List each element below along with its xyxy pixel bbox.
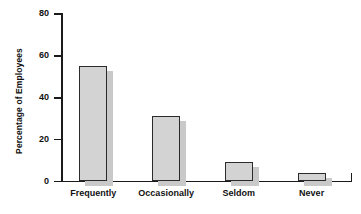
y-tick-label-40: 40 xyxy=(5,92,49,102)
x-axis-right-cap-tick xyxy=(351,173,353,181)
y-tick-20 xyxy=(54,139,61,141)
y-tick-80 xyxy=(54,13,61,15)
bar-body xyxy=(79,66,107,181)
x-tick-label-never: Never xyxy=(257,188,361,198)
bar-never xyxy=(298,173,326,181)
bar-body xyxy=(298,173,326,181)
y-tick-label-60: 60 xyxy=(5,50,49,60)
y-tick-label-0: 0 xyxy=(5,176,49,186)
bar-occasionally xyxy=(152,116,180,181)
y-axis-line xyxy=(61,13,63,181)
bar-seldom xyxy=(225,162,253,181)
y-tick-60 xyxy=(54,55,61,57)
y-tick-40 xyxy=(54,97,61,99)
y-tick-label-80: 80 xyxy=(5,8,49,18)
y-tick-0 xyxy=(54,181,61,183)
y-tick-label-20: 20 xyxy=(5,134,49,144)
bar-frequently xyxy=(79,66,107,181)
bar-body xyxy=(152,116,180,181)
bar-body xyxy=(225,162,253,181)
bar-chart: Percentage of Employees 0 20 40 60 80 Fr… xyxy=(0,0,361,214)
